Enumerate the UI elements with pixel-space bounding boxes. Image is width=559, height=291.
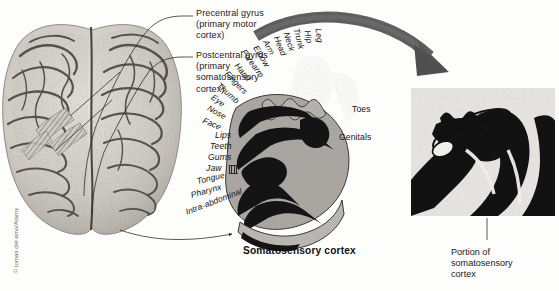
- label-gums: Gums: [208, 153, 231, 162]
- inset-caption: Portion of somatosensory cortex: [451, 247, 537, 280]
- label-leg: Leg: [314, 28, 325, 43]
- label-toes: Toes: [352, 105, 371, 114]
- image-credit: © tomas del amo/Alamy: [12, 178, 19, 274]
- somatosensory-cortex-figure: Precentral gyrus (primary motor cortex) …: [0, 0, 559, 291]
- label-lips: Lips: [215, 131, 231, 140]
- figure-title: Somatosensory cortex: [243, 245, 356, 256]
- label-genitals: Genitals: [339, 133, 371, 142]
- jaw-tick-marks: [229, 165, 238, 174]
- label-teeth: Teeth: [210, 142, 232, 151]
